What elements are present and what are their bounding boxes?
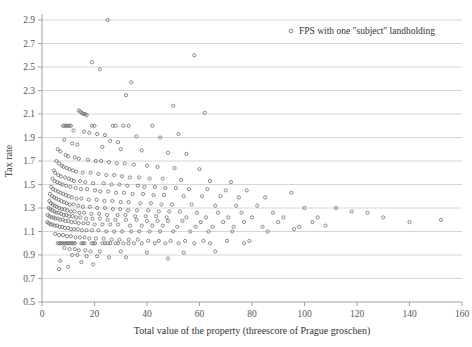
x-tick-label: 80 bbox=[247, 309, 257, 319]
x-tick-label: 160 bbox=[455, 309, 470, 319]
plot-canvas: 0.50.70.91.11.31.51.71.92.12.32.52.72.90… bbox=[0, 0, 472, 347]
x-tick-label: 20 bbox=[90, 309, 100, 319]
y-tick-label: 1.3 bbox=[23, 203, 35, 213]
y-tick-label: 1.5 bbox=[23, 180, 35, 190]
y-tick-label: 2.9 bbox=[23, 15, 35, 25]
y-tick-label: 2.1 bbox=[23, 109, 35, 119]
y-tick-label: 0.5 bbox=[23, 297, 35, 307]
legend: FPS with one "subject" landholding bbox=[289, 26, 435, 36]
y-tick-label: 1.7 bbox=[23, 156, 35, 166]
y-tick-label: 2.7 bbox=[23, 39, 35, 49]
chart-background bbox=[0, 0, 472, 347]
y-tick-label: 2.5 bbox=[23, 62, 35, 72]
y-tick-label: 0.9 bbox=[23, 250, 35, 260]
legend-label: FPS with one "subject" landholding bbox=[299, 26, 435, 36]
x-axis-title: Total value of the property (threescore … bbox=[134, 325, 370, 337]
y-axis-title: Tax rate bbox=[3, 144, 14, 177]
x-tick-label: 60 bbox=[195, 309, 205, 319]
scatter-chart: 0.50.70.91.11.31.51.71.92.12.32.52.72.90… bbox=[0, 0, 472, 347]
y-tick-label: 2.3 bbox=[23, 86, 35, 96]
x-tick-label: 0 bbox=[40, 309, 45, 319]
y-tick-label: 1.9 bbox=[23, 133, 35, 143]
y-tick-label: 0.7 bbox=[23, 274, 35, 284]
x-tick-label: 140 bbox=[402, 309, 417, 319]
y-tick-label: 1.1 bbox=[23, 227, 35, 237]
x-tick-label: 120 bbox=[350, 309, 365, 319]
x-tick-label: 100 bbox=[297, 309, 312, 319]
x-tick-label: 40 bbox=[142, 309, 152, 319]
